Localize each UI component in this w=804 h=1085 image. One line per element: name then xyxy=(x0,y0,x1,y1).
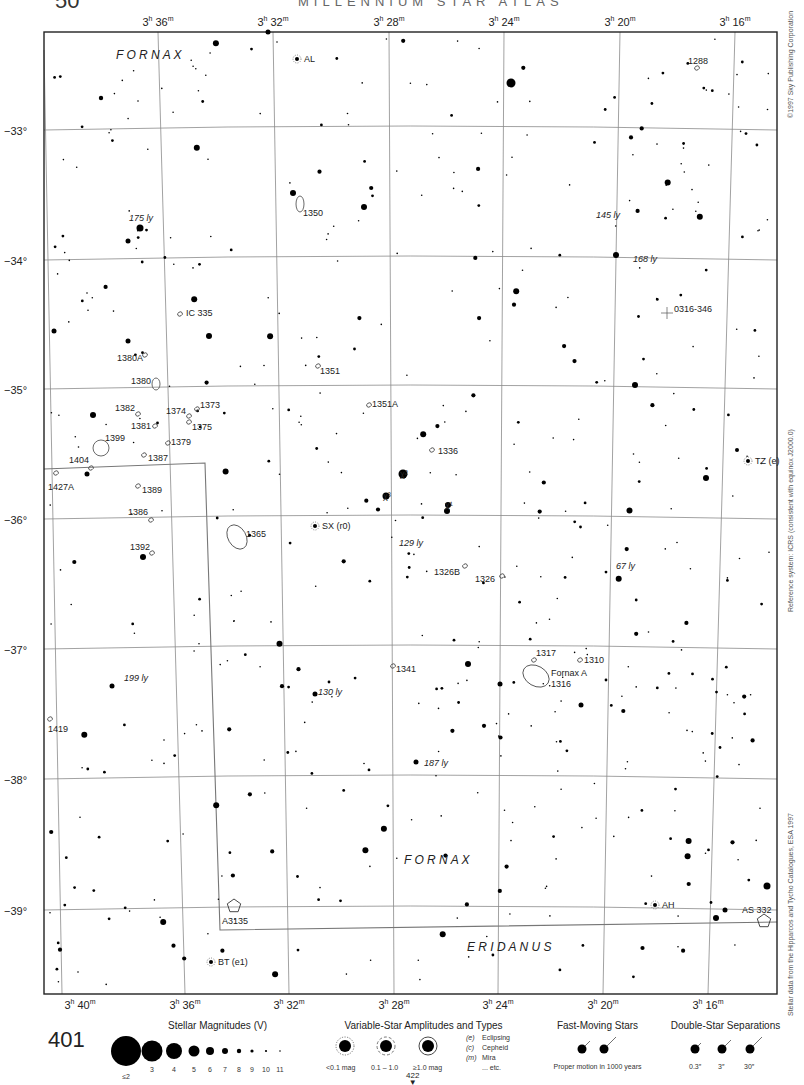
ra-tick-label: 3h 28m xyxy=(373,15,404,28)
variable-type-item: ... etc. xyxy=(466,1063,510,1073)
variable-type-item: (c)Cepheid xyxy=(466,1043,510,1053)
svg-text:F O R N A X: F O R N A X xyxy=(116,48,183,62)
svg-text:Fornax A: Fornax A xyxy=(551,668,587,678)
svg-text:1326: 1326 xyxy=(475,574,495,584)
svg-text:3: 3 xyxy=(150,1066,154,1073)
svg-text:175 ly: 175 ly xyxy=(129,213,154,223)
amplitude-label-medium: 0.1 – 1.0 xyxy=(371,1064,398,1071)
svg-text:1365: 1365 xyxy=(246,529,266,539)
svg-text:1336: 1336 xyxy=(438,446,458,456)
svg-text:1375: 1375 xyxy=(192,422,212,432)
ra-tick-label: 3h 16m xyxy=(692,998,723,1011)
svg-text:1317: 1317 xyxy=(536,648,556,658)
svg-text:χ³: χ³ xyxy=(383,491,391,501)
dec-tick-label: −34° xyxy=(4,255,27,267)
ra-tick-label: 3h 20m xyxy=(604,15,635,28)
svg-text:1326B: 1326B xyxy=(434,567,460,577)
svg-text:F O R N A X: F O R N A X xyxy=(404,853,471,867)
svg-text:χ¹: χ¹ xyxy=(445,500,453,510)
field-stars xyxy=(49,30,770,986)
svg-text:5: 5 xyxy=(192,1066,196,1073)
svg-text:1427A: 1427A xyxy=(48,482,74,492)
variable-type-item: (e)Eclipsing xyxy=(466,1033,510,1043)
svg-text:4: 4 xyxy=(172,1066,176,1073)
magnitude-scale: ≤234567891011 xyxy=(110,1031,325,1081)
svg-text:130 ly: 130 ly xyxy=(318,687,343,697)
svg-text:1351A: 1351A xyxy=(372,399,398,409)
down-arrow-icon: ▼ xyxy=(406,1080,419,1085)
svg-text:SX (r0): SX (r0) xyxy=(322,521,351,531)
legend-variables: Variable-Star Amplitudes and Types <0.1 … xyxy=(326,1020,521,1031)
svg-text:IC 335: IC 335 xyxy=(186,308,213,318)
reference-system-text: Reference system: ICRS (consistent with … xyxy=(787,429,794,612)
coordinate-grid xyxy=(44,32,777,994)
svg-text:67 ly: 67 ly xyxy=(616,561,636,571)
svg-text:1392: 1392 xyxy=(130,542,150,552)
separation-label-0: 0.3″ xyxy=(689,1063,701,1070)
separation-label-2: 30″ xyxy=(744,1063,754,1070)
ra-tick-label: 3h 16m xyxy=(719,15,750,28)
proper-motion-symbols xyxy=(540,1031,655,1059)
variable-types-list: (e)Eclipsing(c)Cepheid(m)Mira... etc. xyxy=(466,1033,510,1073)
svg-text:1341: 1341 xyxy=(396,664,416,674)
svg-text:6: 6 xyxy=(208,1066,212,1073)
ra-tick-label: 3h 36m xyxy=(169,998,200,1011)
svg-text:145 ly: 145 ly xyxy=(596,210,621,220)
svg-text:1399: 1399 xyxy=(105,433,125,443)
ra-tick-label: 3h 32m xyxy=(273,998,304,1011)
double-star-symbols xyxy=(668,1031,783,1059)
svg-text:BT (e1): BT (e1) xyxy=(218,957,248,967)
svg-text:1351: 1351 xyxy=(320,366,340,376)
deep-sky-objects xyxy=(47,55,771,966)
svg-text:1382: 1382 xyxy=(115,403,135,413)
proper-motion-caption: Proper motion in 1000 years xyxy=(540,1063,655,1070)
svg-text:1373: 1373 xyxy=(200,400,220,410)
separation-label-1: 3″ xyxy=(718,1063,724,1070)
dec-tick-label: −37° xyxy=(4,644,27,656)
data-source-text: Stellar data from the Hipparcos and Tych… xyxy=(787,813,794,1016)
svg-text:199 ly: 199 ly xyxy=(124,673,149,683)
svg-text:10: 10 xyxy=(262,1066,270,1073)
ra-tick-label: 3h 28m xyxy=(378,998,409,1011)
ra-tick-label: 3h 36m xyxy=(142,15,173,28)
svg-text:E R I D A N U S: E R I D A N U S xyxy=(467,940,551,954)
amplitude-label-small: <0.1 mag xyxy=(326,1064,355,1071)
svg-text:187 ly: 187 ly xyxy=(424,758,449,768)
star-chart: 12881350IC 3351380A135113801351A13821374… xyxy=(0,0,804,1085)
svg-text:AL: AL xyxy=(304,54,315,64)
legend-double-stars-title: Double-Star Separations xyxy=(668,1020,783,1031)
svg-text:7: 7 xyxy=(223,1066,227,1073)
legend-variables-title: Variable-Star Amplitudes and Types xyxy=(326,1020,521,1031)
svg-text:0316-346: 0316-346 xyxy=(674,304,712,314)
legend-magnitudes-title: Stellar Magnitudes (V) xyxy=(110,1020,325,1031)
dec-tick-label: −36° xyxy=(4,514,27,526)
svg-text:χ²: χ² xyxy=(400,469,408,479)
dec-tick-label: −33° xyxy=(4,125,27,137)
dec-tick-label: −35° xyxy=(4,384,27,396)
variable-type-item: (m)Mira xyxy=(466,1053,510,1063)
svg-text:8: 8 xyxy=(237,1066,241,1073)
svg-text:1419: 1419 xyxy=(48,724,68,734)
svg-text:1404: 1404 xyxy=(69,455,89,465)
chart-frame xyxy=(44,32,777,994)
legend-double-stars: Double-Star Separations 0.3″ 3″ 30″ xyxy=(668,1020,783,1073)
next-page-link[interactable]: 422 ▼ xyxy=(406,1071,419,1085)
ra-tick-label: 3h 24m xyxy=(482,998,513,1011)
svg-text:1381: 1381 xyxy=(131,421,151,431)
svg-text:129 ly: 129 ly xyxy=(399,538,424,548)
ra-tick-label: 3h 40m xyxy=(64,998,95,1011)
svg-text:A3135: A3135 xyxy=(222,916,248,926)
svg-text:1380A: 1380A xyxy=(117,353,143,363)
svg-text:1379: 1379 xyxy=(171,437,191,447)
object-labels: 12881350IC 3351380A135113801351A13821374… xyxy=(48,48,780,967)
svg-text:168 ly: 168 ly xyxy=(633,254,658,264)
dec-tick-label: −38° xyxy=(4,774,27,786)
svg-text:1288: 1288 xyxy=(688,56,708,66)
ra-tick-label: 3h 32m xyxy=(257,15,288,28)
page-number: 401 xyxy=(48,1027,85,1053)
svg-text:1386: 1386 xyxy=(128,507,148,517)
ra-tick-label: 3h 20m xyxy=(587,998,618,1011)
svg-text:AH: AH xyxy=(662,900,675,910)
dec-tick-label: −39° xyxy=(4,905,27,917)
svg-text:1310: 1310 xyxy=(584,655,604,665)
